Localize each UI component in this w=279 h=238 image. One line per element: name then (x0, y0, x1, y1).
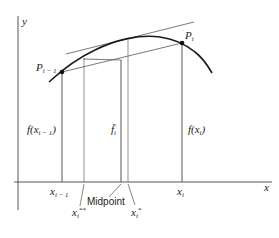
annotation-midpoint: Midpoint (87, 197, 125, 207)
leader-x-double-star (80, 184, 84, 206)
x-tick-label-left: xi − 1 (50, 186, 69, 199)
diagram-canvas (0, 0, 279, 238)
annotation-x-double-star: xi** (72, 207, 86, 220)
height-label-right: f(xi) (188, 124, 205, 137)
point-label-p-i-minus-1: Pi − 1 (36, 62, 56, 75)
height-label-mean: f̄i (111, 124, 116, 137)
y-axis-label: y (22, 16, 27, 27)
point-p-i-minus-1 (60, 70, 65, 75)
point-label-p-i: Pi (185, 30, 194, 43)
leader-x-star (128, 184, 135, 205)
x-tick-label-right: xi (177, 186, 184, 199)
function-curve (49, 36, 212, 82)
point-p-i (180, 41, 185, 46)
annotation-x-star: xi* (131, 207, 141, 220)
height-label-left: f(xi − 1) (27, 124, 56, 137)
x-axis-label: x (264, 182, 269, 193)
